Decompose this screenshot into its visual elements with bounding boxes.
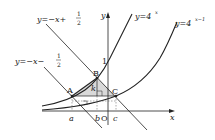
curve-4-pow-x-minus-1 <box>42 22 177 110</box>
label-curve-4-pow-x: y=4 x <box>134 9 158 21</box>
label-b: B <box>93 69 99 78</box>
x-axis-label: x <box>170 113 175 122</box>
x-tick-c: c <box>113 114 118 123</box>
svg-text:y=−x−: y=−x− <box>14 57 44 66</box>
label-line-neg-x-minus-half: y=−x− 1 2 <box>14 52 61 68</box>
svg-text:x−1: x−1 <box>195 16 205 22</box>
label-k: k <box>91 84 96 93</box>
label-a: A <box>66 86 73 95</box>
x-tick-b: b <box>95 114 100 123</box>
svg-text:y=4: y=4 <box>174 19 191 28</box>
svg-text:y=−x+: y=−x+ <box>36 15 66 24</box>
point-a <box>71 95 74 98</box>
svg-text:2: 2 <box>57 61 61 68</box>
y-axis-arrow-icon <box>106 12 110 18</box>
svg-text:2: 2 <box>77 19 81 26</box>
origin-label: O <box>101 114 108 123</box>
y-tick-1-label: 1 <box>102 57 107 66</box>
label-curve-4-pow-x-minus-1: y=4 x−1 <box>174 16 205 28</box>
x-tick-a: a <box>69 114 74 123</box>
svg-text:1: 1 <box>57 52 61 59</box>
svg-text:y=4: y=4 <box>134 12 151 21</box>
svg-text:1: 1 <box>77 10 81 17</box>
svg-text:x: x <box>155 9 158 15</box>
diagram-canvas: A B C k y x O 1 a b c y=4 x y=4 x−1 y=−x… <box>0 0 215 140</box>
label-c: C <box>112 87 118 96</box>
y-axis-label: y <box>100 11 106 20</box>
label-line-neg-x-plus-half: y=−x+ 1 2 <box>36 10 81 26</box>
